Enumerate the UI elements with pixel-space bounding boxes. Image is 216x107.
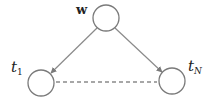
node-w bbox=[93, 5, 119, 31]
node-t1 bbox=[28, 70, 54, 96]
graphical-model-diagram: w t1 tN bbox=[0, 0, 216, 107]
edge-w-to-t1 bbox=[51, 28, 97, 73]
edge-w-to-tN bbox=[115, 28, 162, 72]
label-t1: t1 bbox=[11, 58, 23, 77]
node-tN bbox=[159, 68, 185, 94]
label-w: w bbox=[75, 2, 88, 17]
label-tN: tN bbox=[188, 57, 203, 76]
